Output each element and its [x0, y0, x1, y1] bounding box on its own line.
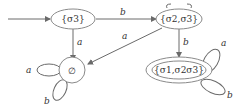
state-label: {σ1,σ2σ3} [154, 65, 204, 75]
loop-label-a: a [26, 65, 31, 75]
loop-label-b: b [227, 90, 233, 100]
edge-s23-to-s123: b [179, 28, 189, 57]
state-s23: {σ2,σ3} [156, 4, 202, 29]
state-s123-accepting: {σ1,σ2σ3} [146, 57, 212, 83]
edge-label-b: b [183, 37, 189, 47]
edge-s3-to-s23: b [96, 7, 156, 19]
automaton-diagram: b a a b a b a b {σ3} {σ2,σ3} [0, 0, 247, 112]
loop-s123-b: b [199, 76, 233, 100]
edge-s3-to-empty: a [73, 28, 82, 60]
edge-s23-to-empty: a [88, 28, 162, 64]
edge-label-a: a [77, 37, 82, 47]
edge-label-b: b [120, 7, 126, 17]
state-empty: ∅ [59, 57, 85, 83]
loop-label-a: a [221, 38, 226, 48]
state-label: ∅ [68, 66, 76, 76]
edge-label-a: a [122, 31, 127, 41]
state-label: {σ3} [61, 14, 84, 24]
loop-label-b: b [44, 96, 50, 106]
state-label: {σ2,σ3} [160, 14, 198, 24]
loop-empty-a: a [26, 64, 61, 76]
state-s3: {σ3} [51, 9, 95, 29]
